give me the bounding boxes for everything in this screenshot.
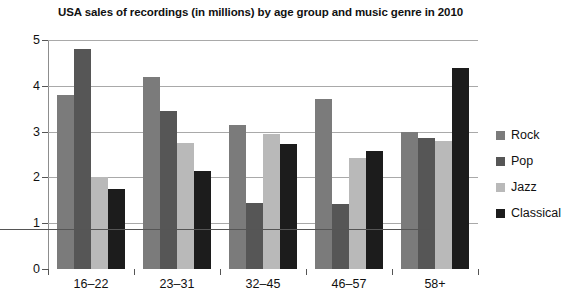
bar-chart: USA sales of recordings (in millions) by… <box>0 0 587 295</box>
bar-classical-3[interactable] <box>280 144 297 269</box>
x-axis-line <box>0 229 430 230</box>
legend-label: Classical <box>511 206 561 220</box>
y-tick-label: 4 <box>14 79 40 93</box>
plot-area <box>48 40 478 269</box>
chart-legend: RockPopJazzClassical <box>496 122 584 226</box>
legend-item-classical[interactable]: Classical <box>496 200 584 226</box>
bar-jazz-2[interactable] <box>177 143 194 269</box>
x-tick-mark <box>306 269 307 275</box>
y-tick-mark <box>42 223 48 224</box>
x-tick-label-4: 46–57 <box>304 277 394 291</box>
bar-group <box>306 40 392 269</box>
y-tick-label: 3 <box>14 125 40 139</box>
x-tick-mark-origin <box>48 269 49 275</box>
bar-pop-3[interactable] <box>246 203 263 269</box>
x-tick-mark <box>392 269 393 275</box>
bar-pop-5[interactable] <box>418 138 435 269</box>
bar-group <box>48 40 134 269</box>
x-tick-label-5: 58+ <box>390 277 480 291</box>
legend-item-jazz[interactable]: Jazz <box>496 174 584 200</box>
bar-pop-2[interactable] <box>160 111 177 269</box>
bar-pop-1[interactable] <box>74 49 91 269</box>
y-tick-label: 5 <box>14 33 40 47</box>
bar-jazz-3[interactable] <box>263 134 280 269</box>
y-tick-label: 2 <box>14 170 40 184</box>
legend-swatch-icon <box>496 183 505 192</box>
bar-classical-2[interactable] <box>194 171 211 269</box>
y-tick-mark <box>42 86 48 87</box>
x-tick-label-1: 16–22 <box>46 277 136 291</box>
legend-swatch-icon <box>496 131 505 140</box>
bar-rock-2[interactable] <box>143 77 160 269</box>
legend-item-rock[interactable]: Rock <box>496 122 584 148</box>
chart-title: USA sales of recordings (in millions) by… <box>58 6 518 18</box>
bar-classical-5[interactable] <box>452 68 469 269</box>
bar-group <box>220 40 306 269</box>
x-tick-mark <box>134 269 135 275</box>
x-tick-mark <box>478 269 479 275</box>
x-tick-mark <box>220 269 221 275</box>
bar-jazz-5[interactable] <box>435 141 452 269</box>
y-axis: 543210 <box>10 40 40 269</box>
x-tick-label-3: 32–45 <box>218 277 308 291</box>
bar-rock-4[interactable] <box>315 99 332 269</box>
bar-group <box>134 40 220 269</box>
bar-jazz-4[interactable] <box>349 158 366 269</box>
bar-jazz-1[interactable] <box>91 177 108 269</box>
legend-item-pop[interactable]: Pop <box>496 148 584 174</box>
bar-rock-1[interactable] <box>57 95 74 269</box>
y-tick-mark <box>42 132 48 133</box>
y-tick-label: 0 <box>14 262 40 276</box>
y-tick-mark <box>42 177 48 178</box>
bar-classical-4[interactable] <box>366 151 383 269</box>
bar-group <box>392 40 478 269</box>
legend-label: Pop <box>511 154 533 168</box>
bar-pop-4[interactable] <box>332 204 349 269</box>
x-tick-label-2: 23–31 <box>132 277 222 291</box>
legend-swatch-icon <box>496 209 505 218</box>
bar-rock-3[interactable] <box>229 125 246 269</box>
legend-swatch-icon <box>496 157 505 166</box>
legend-label: Rock <box>511 128 539 142</box>
bar-rock-5[interactable] <box>401 132 418 269</box>
y-tick-mark <box>42 40 48 41</box>
legend-label: Jazz <box>511 180 537 194</box>
